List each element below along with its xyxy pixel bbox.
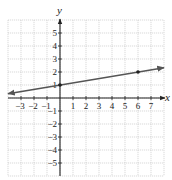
x-axis-label: x <box>164 91 170 103</box>
x-tick-label: −3 <box>15 101 25 111</box>
data-line <box>8 68 164 94</box>
x-tick-label: 1 <box>71 101 76 111</box>
y-tick-label: −3 <box>47 132 57 142</box>
y-tick-label: 5 <box>53 28 58 38</box>
data-point <box>136 70 140 74</box>
x-tick-label: 4 <box>110 101 115 111</box>
x-tick-label: 5 <box>123 101 128 111</box>
x-tick-label: 7 <box>149 101 154 111</box>
line-y-equals-x-over-6-plus-1 <box>8 68 164 94</box>
y-tick-label: −2 <box>47 119 57 129</box>
x-tick-label: 6 <box>136 101 141 111</box>
coordinate-plane: −3−2−11234567−5−4−3−2−112345 x y <box>0 0 172 180</box>
y-tick-label: −1 <box>47 106 57 116</box>
x-tick-label: 3 <box>97 101 102 111</box>
axes <box>8 19 165 176</box>
y-tick-label: 2 <box>53 67 58 77</box>
x-tick-label: 2 <box>84 101 89 111</box>
y-axis-label: y <box>56 4 62 16</box>
y-tick-label: −5 <box>47 158 57 168</box>
y-tick-label: −4 <box>47 145 57 155</box>
y-tick-label: 3 <box>53 54 58 64</box>
y-tick-label: 4 <box>53 41 58 51</box>
data-point <box>58 83 62 87</box>
x-tick-label: −2 <box>28 101 38 111</box>
